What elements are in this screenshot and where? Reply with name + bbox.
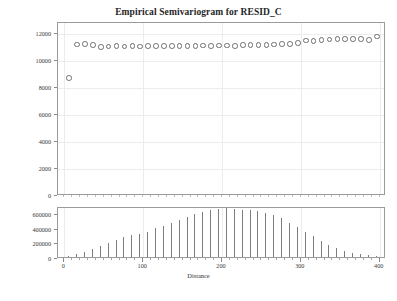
x-tick-minor xyxy=(182,258,183,260)
bar xyxy=(76,254,77,257)
x-tick-minor xyxy=(284,258,285,260)
data-point-marker xyxy=(90,42,96,48)
data-point-marker xyxy=(319,37,325,43)
x-tick-upper-panel xyxy=(134,195,135,197)
bar xyxy=(84,252,85,257)
x-tick-upper-panel xyxy=(379,195,380,197)
x-tick-minor xyxy=(276,258,277,260)
gridline-horizontal xyxy=(58,142,384,143)
x-tick-minor xyxy=(308,258,309,260)
bar xyxy=(187,217,188,257)
x-tick-upper-panel xyxy=(308,195,309,197)
data-point-marker xyxy=(185,43,191,49)
data-point-marker xyxy=(264,42,270,48)
bar xyxy=(123,237,124,257)
x-tick-upper-panel xyxy=(292,195,293,197)
data-point-marker xyxy=(279,41,285,47)
bar xyxy=(344,251,345,257)
semivariance-plot-area xyxy=(58,23,384,194)
data-point-marker xyxy=(74,42,80,48)
y-tick-label: 400000 xyxy=(32,225,51,232)
data-point-marker xyxy=(295,40,301,46)
gridline-horizontal xyxy=(58,34,384,35)
data-point-marker xyxy=(358,36,364,42)
data-point-marker xyxy=(66,75,72,81)
x-tick-label: 400 xyxy=(374,262,383,269)
y-tick-label: 10000 xyxy=(36,56,51,63)
x-tick-label: 300 xyxy=(295,262,304,269)
x-tick-minor xyxy=(331,258,332,260)
x-tick-upper-panel xyxy=(63,195,64,197)
y-tick-label: 2000 xyxy=(39,164,51,171)
gridline-vertical xyxy=(380,23,381,194)
x-tick-minor xyxy=(347,258,348,260)
data-point-marker xyxy=(82,41,88,47)
x-tick-upper-panel xyxy=(190,195,191,197)
data-point-marker xyxy=(177,43,183,49)
x-tick-upper-panel xyxy=(300,195,301,197)
data-point-marker xyxy=(350,36,356,42)
x-tick-minor xyxy=(237,258,238,260)
x-tick-upper-panel xyxy=(229,195,230,197)
y-tick-label: 600000 xyxy=(32,211,51,218)
bar xyxy=(226,208,227,257)
semivariogram-figure: Empirical Semivariogram for RESID_C 0200… xyxy=(0,0,397,301)
chart-title: Empirical Semivariogram for RESID_C xyxy=(0,7,397,17)
x-tick-minor xyxy=(103,258,104,260)
data-point-marker xyxy=(106,44,112,50)
x-tick-minor xyxy=(71,258,72,260)
x-tick-label: 200 xyxy=(216,262,225,269)
x-tick-major xyxy=(142,258,143,262)
y-tick-label: 200000 xyxy=(32,240,51,247)
data-point-marker xyxy=(287,41,293,47)
x-tick-upper-panel xyxy=(95,195,96,197)
x-tick-minor xyxy=(253,258,254,260)
data-point-marker xyxy=(327,37,333,43)
x-tick-minor xyxy=(260,258,261,260)
gridline-vertical xyxy=(222,23,223,194)
bar xyxy=(108,243,109,257)
x-tick-upper-panel xyxy=(158,195,159,197)
paircount-plot-area xyxy=(58,208,384,257)
y-tick-label: 0 xyxy=(48,255,51,262)
x-tick-major xyxy=(300,258,301,262)
data-point-marker xyxy=(248,42,254,48)
y-tick-label: 6000 xyxy=(39,110,51,117)
x-tick-minor xyxy=(150,258,151,260)
data-point-marker xyxy=(303,38,309,44)
data-point-marker xyxy=(169,43,175,49)
bar xyxy=(305,232,306,257)
bar xyxy=(289,223,290,257)
x-tick-label: 0 xyxy=(62,262,65,269)
data-point-marker xyxy=(153,43,159,49)
data-point-marker xyxy=(114,43,120,49)
bar xyxy=(218,209,219,257)
x-tick-upper-panel xyxy=(339,195,340,197)
data-point-marker xyxy=(98,44,104,50)
x-tick-upper-panel xyxy=(260,195,261,197)
data-point-marker xyxy=(374,34,380,40)
bar xyxy=(147,232,148,257)
x-tick-minor xyxy=(292,258,293,260)
gridline-vertical xyxy=(222,208,223,257)
x-tick-minor xyxy=(119,258,120,260)
x-tick-upper-panel xyxy=(371,195,372,197)
gridline-vertical xyxy=(64,208,65,257)
bar xyxy=(68,256,69,257)
x-tick-minor xyxy=(197,258,198,260)
bar xyxy=(297,227,298,257)
bar xyxy=(163,226,164,257)
data-point-marker xyxy=(137,44,143,50)
data-point-marker xyxy=(335,36,341,42)
x-axis-label-distance: Distance xyxy=(0,272,397,279)
x-tick-upper-panel xyxy=(221,195,222,197)
x-tick-upper-panel xyxy=(324,195,325,197)
data-point-marker xyxy=(232,43,238,49)
bar xyxy=(131,235,132,257)
x-tick-minor xyxy=(166,258,167,260)
x-tick-upper-panel xyxy=(71,195,72,197)
x-tick-upper-panel xyxy=(111,195,112,197)
x-tick-upper-panel xyxy=(363,195,364,197)
x-tick-minor xyxy=(229,258,230,260)
y-tick-mark xyxy=(54,258,57,259)
